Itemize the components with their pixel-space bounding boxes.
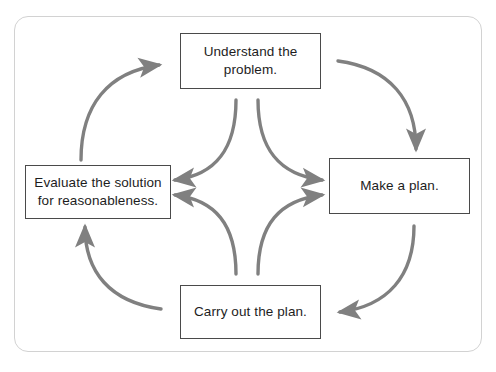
arrow-carryout-to-evaluate-inner [175, 195, 236, 274]
arrow-evaluate-to-understand [81, 65, 159, 160]
arrow-understand-to-makeplan-inner [258, 100, 322, 180]
arrow-understand-to-makeplan [338, 61, 416, 149]
node-make-a-plan: Make a plan. [329, 158, 470, 214]
node-carry-out-the-plan: Carry out the plan. [180, 285, 321, 339]
node-label-carryout: Carry out the plan. [188, 303, 313, 321]
node-label-understand: Understand the problem. [198, 43, 304, 79]
node-evaluate-the-solution: Evaluate the solution for reasonableness… [25, 165, 171, 219]
node-understand-the-problem: Understand the problem. [180, 33, 321, 89]
diagram-canvas: Understand the problem. Make a plan. Car… [0, 0, 496, 372]
node-label-evaluate: Evaluate the solution for reasonableness… [28, 174, 167, 210]
arrow-understand-to-evaluate [175, 100, 236, 180]
node-label-makeplan: Make a plan. [354, 177, 445, 195]
arrow-carryout-to-evaluate [85, 227, 161, 309]
arrow-makeplan-to-carryout [340, 226, 414, 312]
arrow-carryout-to-makeplan-inner [258, 195, 322, 274]
